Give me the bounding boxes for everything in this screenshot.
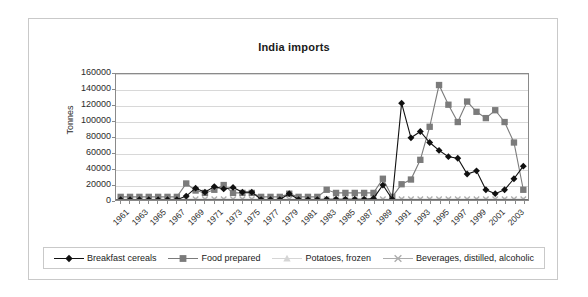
y-tick-label: 0 <box>41 196 111 205</box>
data-point-marker <box>408 134 415 141</box>
data-point-marker <box>395 255 402 262</box>
data-point-marker <box>511 139 517 145</box>
y-tick-label: 40000 <box>41 164 111 173</box>
y-tick-label: 120000 <box>41 100 111 109</box>
data-point-marker <box>455 119 461 125</box>
legend-label: Breakfast cereals <box>87 253 157 263</box>
x-tick-mark <box>120 201 121 204</box>
data-point-marker <box>180 255 187 262</box>
data-point-marker <box>426 124 432 130</box>
data-point-marker <box>284 254 291 261</box>
plot-area <box>115 73 529 201</box>
x-tick-mark <box>477 201 478 204</box>
y-tick-label: 60000 <box>41 148 111 157</box>
x-tick-mark <box>270 201 271 204</box>
data-point-marker <box>473 109 479 115</box>
x-tick-mark <box>148 201 149 204</box>
chart-legend: Breakfast cerealsFood preparedPotatoes, … <box>43 247 545 269</box>
data-point-marker <box>482 186 489 193</box>
data-point-marker <box>398 181 404 187</box>
legend-item[interactable]: Potatoes, frozen <box>272 253 371 264</box>
data-point-marker <box>464 171 471 178</box>
x-tick-mark <box>129 201 130 204</box>
x-tick-mark <box>242 201 243 204</box>
x-tick-mark <box>496 201 497 204</box>
x-tick-mark <box>280 201 281 204</box>
x-tick-mark <box>223 201 224 204</box>
data-point-marker <box>445 153 452 160</box>
x-tick-mark <box>411 201 412 204</box>
x-tick-mark <box>317 201 318 204</box>
x-tick-mark <box>214 201 215 204</box>
data-point-marker <box>65 254 72 261</box>
legend-item[interactable]: Breakfast cereals <box>54 253 157 264</box>
x-axis-line <box>116 199 528 200</box>
data-point-marker <box>398 100 405 107</box>
legend-item[interactable]: Food prepared <box>168 253 260 264</box>
x-tick-mark <box>505 201 506 204</box>
data-point-marker <box>492 190 499 197</box>
series-line <box>121 103 524 200</box>
x-tick-mark <box>195 201 196 204</box>
x-tick-mark <box>346 201 347 204</box>
data-point-marker <box>454 155 461 162</box>
legend-marker-icon <box>54 253 84 264</box>
x-tick-mark <box>327 201 328 204</box>
x-tick-mark <box>383 201 384 204</box>
legend-key-triangle-icon <box>272 253 302 264</box>
x-tick-mark <box>167 201 168 204</box>
data-point-marker <box>361 190 367 196</box>
legend-label: Beverages, distilled, alcoholic <box>416 253 534 263</box>
x-tick-mark <box>233 201 234 204</box>
x-tick-mark <box>430 201 431 204</box>
legend-key-cross-icon <box>383 253 413 264</box>
data-point-marker <box>408 176 414 182</box>
series-line <box>121 85 524 197</box>
x-tick-mark <box>204 201 205 204</box>
x-tick-mark <box>261 201 262 204</box>
data-point-marker <box>323 187 329 193</box>
x-tick-mark <box>186 201 187 204</box>
x-tick-mark <box>355 201 356 204</box>
data-point-marker <box>473 167 480 174</box>
x-tick-mark <box>468 201 469 204</box>
legend-label: Food prepared <box>201 253 260 263</box>
data-point-marker <box>445 102 451 108</box>
legend-key-square-icon <box>168 253 198 264</box>
series-layer <box>116 74 528 200</box>
legend-marker-icon <box>168 253 198 264</box>
x-tick-mark <box>515 201 516 204</box>
data-point-marker <box>333 190 339 196</box>
x-tick-mark <box>487 201 488 204</box>
x-tick-mark <box>336 201 337 204</box>
data-point-marker <box>492 107 498 113</box>
x-tick-mark <box>524 201 525 204</box>
x-tick-mark <box>176 201 177 204</box>
data-point-marker <box>436 82 442 88</box>
x-tick-mark <box>449 201 450 204</box>
x-tick-mark <box>421 201 422 204</box>
series-food-prepared <box>117 82 526 200</box>
legend-label: Potatoes, frozen <box>305 253 371 263</box>
y-axis-ticks: 0200004000060000800001000001200001400001… <box>29 73 115 201</box>
x-tick-mark <box>440 201 441 204</box>
chart-figure-frame: India imports Tonnes 0200004000060000800… <box>28 18 558 280</box>
data-point-marker <box>520 187 526 193</box>
legend-item[interactable]: Beverages, distilled, alcoholic <box>383 253 534 264</box>
legend-key-diamond-icon <box>54 253 84 264</box>
data-point-marker <box>501 119 507 125</box>
y-tick-label: 160000 <box>41 68 111 77</box>
series-breakfast-cereals <box>117 100 527 201</box>
x-tick-mark <box>402 201 403 204</box>
chart-title: India imports <box>29 41 559 53</box>
data-point-marker <box>183 180 189 186</box>
x-tick-mark <box>374 201 375 204</box>
data-point-marker <box>352 190 358 196</box>
y-tick-label: 100000 <box>41 116 111 125</box>
chart-screenshot: India imports Tonnes 0200004000060000800… <box>0 0 588 297</box>
data-point-marker <box>483 115 489 121</box>
data-point-marker <box>380 176 386 182</box>
x-tick-mark <box>157 201 158 204</box>
legend-marker-icon <box>272 253 302 264</box>
y-tick-label: 20000 <box>41 180 111 189</box>
